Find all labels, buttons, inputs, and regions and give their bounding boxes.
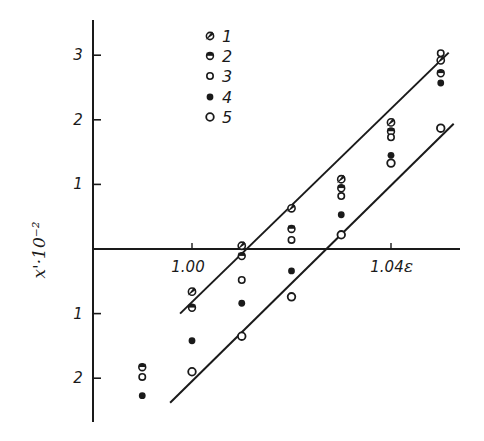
legend-label-1: 1 xyxy=(222,27,232,46)
marker-circle-dot xyxy=(139,364,146,371)
legend-label-2: 2 xyxy=(222,47,232,66)
marker-open-circle-small xyxy=(338,193,344,199)
legend-label-4: 4 xyxy=(222,88,232,107)
legend: 12345 xyxy=(206,27,233,127)
marker-open-circle-small xyxy=(207,73,213,79)
marker-circle-dot xyxy=(288,226,295,233)
marker-open-circle-small xyxy=(239,277,245,283)
marker-half-filled-slanted xyxy=(387,118,396,127)
y-tick-label: 1 xyxy=(73,175,83,193)
marker-filled-circle xyxy=(338,211,345,218)
marker-circle-dot xyxy=(338,185,345,192)
marker-open-circle xyxy=(288,293,296,301)
marker-open-circle xyxy=(337,231,345,239)
marker-half-filled-slanted xyxy=(188,287,197,296)
marker-open-circle-small xyxy=(388,134,394,140)
marker-open-circle xyxy=(437,124,445,132)
marker-filled-circle xyxy=(238,300,245,307)
scatter-chart: 21123 1.001.04 ε x'·10⁻² 12345 xyxy=(0,0,484,441)
y-axis-title: x'·10⁻² xyxy=(29,221,49,278)
y-tick-label: 2 xyxy=(73,369,83,387)
marker-filled-circle xyxy=(139,392,146,399)
marker-filled-circle xyxy=(437,80,444,87)
marker-circle-dot xyxy=(207,53,214,60)
marker-open-circle xyxy=(238,332,246,340)
marker-circle-dot xyxy=(238,253,245,260)
x-axis-title: ε xyxy=(404,256,413,276)
marker-open-circle-small xyxy=(288,237,294,243)
marker-open-circle xyxy=(387,159,395,167)
x-tick-label: 1.00 xyxy=(171,258,204,276)
legend-label-5: 5 xyxy=(222,108,232,127)
x-tick-label: 1.04 xyxy=(370,258,403,276)
marker-half-filled-slanted xyxy=(337,175,346,184)
marker-open-circle-small xyxy=(438,50,444,56)
y-tick-label: 2 xyxy=(73,111,83,129)
fit-lines xyxy=(170,53,454,403)
x-ticks: 1.001.04 xyxy=(171,243,403,276)
marker-half-filled-slanted xyxy=(237,241,246,250)
marker-filled-circle xyxy=(388,152,395,159)
y-tick-label: 3 xyxy=(73,46,83,64)
marker-half-filled-slanted xyxy=(206,32,215,41)
marker-open-circle xyxy=(188,368,196,376)
marker-filled-circle xyxy=(288,268,295,275)
marker-circle-dot xyxy=(189,304,196,311)
marker-open-circle xyxy=(206,113,214,121)
legend-label-3: 3 xyxy=(222,67,232,86)
marker-open-circle-small xyxy=(139,374,145,380)
marker-filled-circle xyxy=(207,94,214,101)
marker-half-filled-slanted xyxy=(287,204,296,213)
y-tick-label: 1 xyxy=(73,305,83,323)
marker-circle-dot xyxy=(437,70,444,77)
marker-filled-circle xyxy=(189,337,196,344)
y-ticks: 21123 xyxy=(73,46,101,387)
